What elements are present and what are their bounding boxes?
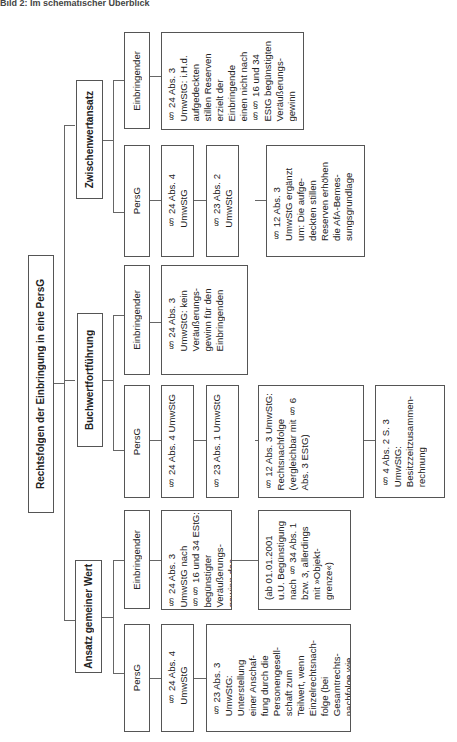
connector <box>64 125 65 620</box>
connector <box>113 315 114 450</box>
agw-persg-item: § 23 Abs. 3 UmwStG: Unterstellung einer … <box>206 624 351 732</box>
bw-persg-item: § 24 Abs. 4 UmwStG <box>161 385 194 498</box>
agw-einbringender-item: (ab 01.01.2001 u.U. Begünstigung nach § … <box>258 510 351 610</box>
connector <box>255 200 266 201</box>
connector <box>64 125 75 126</box>
connector <box>102 140 113 141</box>
connector <box>150 322 161 323</box>
connector <box>102 617 113 618</box>
connector <box>150 560 161 561</box>
connector <box>113 80 124 81</box>
connector <box>64 380 75 381</box>
bw-einbringender-item: § 24 Abs. 3 UmwStG: kein Veräußerungs- g… <box>161 265 248 375</box>
figure-caption: Bild 2: Im schematischer Überblick <box>0 0 190 6</box>
agw-einbringender-item: § 24 Abs. 3 UmwStG nach §§ 16 und 34 ESt… <box>161 510 232 610</box>
zw-einbringender-item: § 24 Abs. 3 UmwStG: i.H.d. aufgedeckten … <box>161 32 304 130</box>
zw-persg-header: PersG <box>124 145 150 257</box>
connector <box>113 212 124 213</box>
agw-einbringender-header: Einbringender <box>124 510 150 609</box>
zw-persg-item: § 12 Abs. 3 UmwStG ergänzt um: Die aufge… <box>266 145 365 257</box>
connector <box>194 678 206 679</box>
zw-persg-item: § 24 Abs. 4 UmwStG <box>161 145 194 257</box>
bw-persg-item: § 4 Abs. 2 S. 3 UmwStG: Besitzzeitzusamm… <box>375 385 445 498</box>
connector <box>150 440 161 441</box>
zw-einbringender-header: Einbringender <box>124 32 150 129</box>
connector <box>113 673 124 674</box>
connector <box>113 560 124 561</box>
connector <box>113 450 124 451</box>
agw-persg-header: PersG <box>124 624 150 732</box>
group-ansatz-gemeiner-wert: Ansatz gemeiner Wert <box>75 560 102 673</box>
group-zwischenwertansatz: Zwischenwertansatz <box>76 80 103 199</box>
agw-persg-item: § 24 Abs. 4 UmwStG <box>161 624 194 732</box>
connector <box>102 380 113 381</box>
connector <box>194 440 206 441</box>
root-label: Rechtsfolgen der Einbringung in eine Per… <box>35 279 47 489</box>
connector <box>53 383 64 384</box>
connector <box>150 76 161 77</box>
root-box: Rechtsfolgen der Einbringung in eine Per… <box>28 255 54 513</box>
connector <box>194 200 206 201</box>
zw-persg-item: § 23 Abs. 2 UmwStG <box>206 145 239 257</box>
connector <box>113 80 114 212</box>
bw-persg-item: § 12 Abs. 3 UmwStG: Rechtsnachfolge (ver… <box>258 385 364 498</box>
bw-einbringender-header: Einbringender <box>124 265 150 375</box>
connector <box>150 200 161 201</box>
connector <box>64 620 75 621</box>
group-buchwertfortfuehrung: Buchwertfortführung <box>77 313 103 447</box>
connector <box>232 560 258 561</box>
connector <box>150 678 161 679</box>
connector <box>113 560 114 673</box>
connector <box>113 315 124 316</box>
bw-persg-item: § 23 Abs. 1 UmwStG <box>206 385 239 498</box>
bw-persg-header: PersG <box>124 385 150 498</box>
connector <box>364 440 375 441</box>
